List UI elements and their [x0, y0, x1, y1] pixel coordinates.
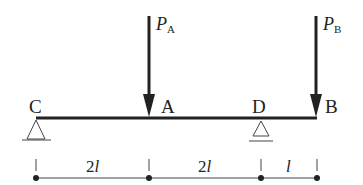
dimension-label-ca: 2l [86, 157, 100, 176]
force-arrow-b [310, 16, 322, 117]
force-arrow-a [143, 16, 155, 117]
point-label-c: C [29, 96, 42, 117]
dimension-line [36, 159, 317, 178]
pin-support-c [22, 120, 51, 140]
force-label-a: PA [155, 14, 175, 35]
dimension-label-db: l [286, 157, 291, 176]
point-label-a: A [161, 96, 175, 117]
dimension-label-ad: 2l [198, 157, 212, 176]
point-label-d: D [252, 96, 266, 117]
force-label-b: PB [322, 14, 341, 35]
roller-support-d [249, 121, 273, 141]
beam-diagram: PA PB C A D B 2l 2l l [0, 0, 363, 185]
point-label-b: B [325, 96, 338, 117]
